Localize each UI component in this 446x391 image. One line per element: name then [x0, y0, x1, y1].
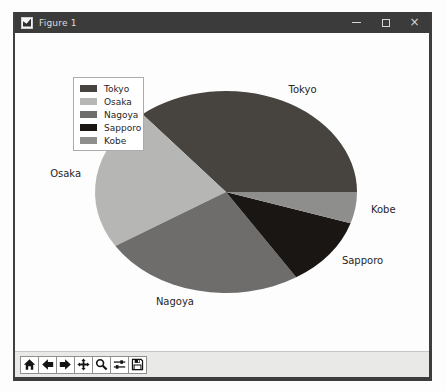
pie-label-tokyo: Tokyo: [288, 84, 317, 95]
minimize-icon: [352, 22, 361, 23]
legend-row-nagoya: Nagoya: [80, 108, 137, 121]
legend-patch-sapporo: [80, 124, 97, 131]
forward-arrow-icon: [59, 358, 72, 371]
zoom-magnifier-icon: [95, 358, 108, 371]
close-button[interactable]: ×: [400, 12, 429, 33]
legend-label: Nagoya: [104, 110, 138, 120]
figure-window: Figure 1 × TokyoOsakaNagoyaSapporoKobe T…: [13, 12, 432, 381]
legend: TokyoOsakaNagoyaSapporoKobe: [73, 77, 144, 151]
minimize-button[interactable]: [342, 12, 371, 33]
legend-label: Kobe: [104, 136, 126, 146]
sliders-icon: [113, 358, 126, 371]
toolbar-buttons: [20, 356, 147, 374]
navigation-toolbar: [15, 351, 429, 377]
close-icon: ×: [409, 16, 419, 28]
pie-label-osaka: Osaka: [50, 168, 81, 179]
legend-label: Osaka: [104, 97, 132, 107]
pie-label-sapporo: Sapporo: [342, 255, 383, 266]
forward-button[interactable]: [56, 356, 75, 374]
legend-patch-osaka: [80, 98, 97, 105]
legend-row-tokyo: Tokyo: [80, 82, 137, 95]
matplotlib-app-icon: [21, 17, 33, 29]
legend-patch-tokyo: [80, 85, 97, 92]
back-arrow-icon: [41, 358, 54, 371]
save-floppy-icon: [131, 358, 144, 371]
legend-row-kobe: Kobe: [80, 134, 137, 147]
legend-row-sapporo: Sapporo: [80, 121, 137, 134]
window-title: Figure 1: [39, 18, 77, 28]
titlebar[interactable]: Figure 1 ×: [15, 12, 429, 33]
legend-row-osaka: Osaka: [80, 95, 137, 108]
maximize-icon: [382, 19, 390, 27]
zoom-button[interactable]: [92, 356, 111, 374]
legend-label: Tokyo: [104, 84, 129, 94]
legend-entries: TokyoOsakaNagoyaSapporoKobe: [80, 82, 137, 147]
pan-arrows-icon: [77, 358, 90, 371]
figure-canvas: TokyoOsakaNagoyaSapporoKobe TokyoOsakaNa…: [15, 33, 429, 351]
pie-label-nagoya: Nagoya: [156, 296, 194, 307]
configure-subplots-button[interactable]: [110, 356, 129, 374]
maximize-button[interactable]: [371, 12, 400, 33]
home-icon: [23, 358, 36, 371]
home-button[interactable]: [20, 356, 39, 374]
save-button[interactable]: [128, 356, 147, 374]
pie-label-kobe: Kobe: [371, 204, 396, 215]
back-button[interactable]: [38, 356, 57, 374]
legend-patch-nagoya: [80, 111, 97, 118]
pan-button[interactable]: [74, 356, 93, 374]
legend-patch-kobe: [80, 137, 97, 144]
legend-label: Sapporo: [104, 123, 141, 133]
